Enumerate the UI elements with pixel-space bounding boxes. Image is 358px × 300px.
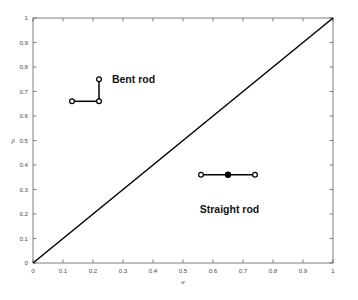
- y-tick-label: 0.7: [19, 88, 28, 95]
- chart-background: [0, 0, 358, 300]
- data-point-open: [253, 172, 258, 177]
- data-point-open: [97, 77, 102, 82]
- series-label: Straight rod: [200, 203, 260, 215]
- data-point-open: [199, 172, 204, 177]
- y-tick-label: 0.9: [19, 39, 28, 46]
- x-tick-label: 0.3: [119, 267, 128, 274]
- y-tick-label: 0.6: [19, 112, 28, 119]
- series-label: Bent rod: [112, 73, 155, 85]
- x-tick-label: 0.8: [269, 267, 278, 274]
- x-tick-label: 0.9: [299, 267, 308, 274]
- y-tick-label: 0: [25, 259, 29, 266]
- y-tick-label: 0.3: [19, 186, 28, 193]
- data-point-filled: [225, 172, 230, 177]
- y-tick-label: 0.2: [19, 210, 28, 217]
- y-tick-label: 0.5: [19, 137, 28, 144]
- x-tick-label: 0: [31, 267, 35, 274]
- x-tick-label: 0.7: [239, 267, 248, 274]
- x-tick-label: 0.5: [179, 267, 188, 274]
- x-tick-label: 1: [331, 267, 335, 274]
- y-tick-label: 0.8: [19, 63, 28, 70]
- y-tick-label: 0.4: [19, 161, 28, 168]
- data-point-open: [70, 99, 75, 104]
- y-tick-label: 0.1: [19, 235, 28, 242]
- x-tick-label: 0.2: [89, 267, 98, 274]
- x-tick-label: 0.4: [149, 267, 158, 274]
- x-tick-label: 0.1: [59, 267, 68, 274]
- data-point-open: [97, 99, 102, 104]
- y-tick-label: 1: [25, 14, 29, 21]
- x-tick-label: 0.6: [209, 267, 218, 274]
- chart-figure: 00.10.20.30.40.50.60.70.80.91 00.10.20.3…: [0, 0, 358, 300]
- scatter-plot: 00.10.20.30.40.50.60.70.80.91 00.10.20.3…: [0, 0, 358, 300]
